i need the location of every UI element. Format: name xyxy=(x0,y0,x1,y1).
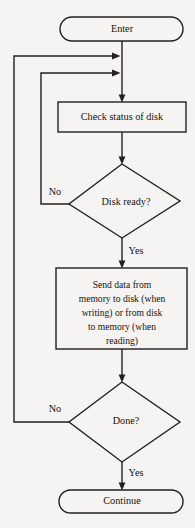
node-send-data-line-4: to memory (when xyxy=(88,321,156,333)
node-start-label: Enter xyxy=(111,23,134,34)
node-disk-ready-label: Disk ready? xyxy=(102,196,151,207)
connector-check-to-disk-ready xyxy=(119,132,126,165)
connector-send-to-done xyxy=(119,349,126,383)
node-end-terminator: Continue xyxy=(59,490,183,513)
node-done-label: Done? xyxy=(113,415,140,426)
node-send-data-line-3: writing) or from disk xyxy=(82,307,163,319)
node-done-decision: Done? xyxy=(69,382,180,462)
node-check-status-label: Check status of disk xyxy=(81,111,164,122)
node-start-terminator: Enter xyxy=(60,17,183,41)
node-send-data-process: Send data from memory to disk (when writ… xyxy=(56,268,187,349)
node-send-data-line-2: memory to disk (when xyxy=(79,293,166,305)
node-end-label: Continue xyxy=(103,495,141,506)
node-disk-ready-decision: Disk ready? xyxy=(69,164,180,238)
node-check-status-process: Check status of disk xyxy=(58,102,186,132)
branch-label-disk-ready-no: No xyxy=(49,186,61,197)
flowchart-diagram: Enter Check status of disk Disk ready? N… xyxy=(0,0,195,528)
branch-label-done-no: No xyxy=(49,403,61,414)
branch-label-disk-ready-yes: Yes xyxy=(129,245,144,256)
connector-done-yes-to-continue xyxy=(119,462,126,491)
connector-start-to-check xyxy=(119,41,126,103)
branch-label-done-yes: Yes xyxy=(129,467,144,478)
node-send-data-line-5: reading) xyxy=(106,335,138,347)
node-send-data-line-1: Send data from xyxy=(93,279,152,290)
connector-disk-ready-yes-to-send xyxy=(119,238,126,269)
